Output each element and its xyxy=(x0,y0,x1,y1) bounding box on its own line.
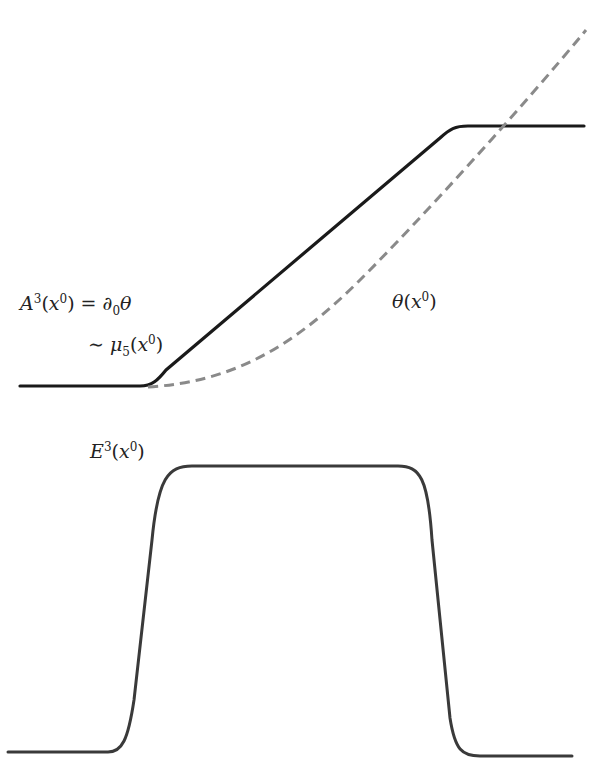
paren-open: ( xyxy=(112,440,119,462)
theta-symbol: θ xyxy=(120,292,131,314)
x-sup: 0 xyxy=(148,333,156,347)
paren-close: ) xyxy=(156,333,163,355)
partial-symbol: ∂ xyxy=(103,292,113,314)
paren-close: ) xyxy=(67,292,74,314)
x-var: x xyxy=(119,440,130,462)
e3-lower-curve xyxy=(8,466,572,756)
e3-label: E3(x0) xyxy=(90,440,145,462)
mu-symbol: μ xyxy=(110,333,122,355)
x-var: x xyxy=(49,292,60,314)
x-var: x xyxy=(137,333,148,355)
partial-sub: 0 xyxy=(112,304,120,318)
tilde-symbol: ∼ xyxy=(88,333,110,355)
mu-sub: 5 xyxy=(122,345,130,359)
e3-sup: 3 xyxy=(104,440,112,454)
x-var: x xyxy=(411,290,422,312)
diagram-canvas xyxy=(0,0,602,780)
paren-close: ) xyxy=(137,440,144,462)
paren-close: ) xyxy=(429,290,436,312)
theta-dashed-curve xyxy=(148,30,586,387)
paren-open: ( xyxy=(403,290,410,312)
theta-symbol: θ xyxy=(392,290,403,312)
mu5-label: ∼ μ5(x0) xyxy=(88,333,163,359)
e3-base: E xyxy=(90,440,104,462)
equals-sign: = xyxy=(75,292,103,314)
a3-base: A xyxy=(20,292,34,314)
theta-label: θ(x0) xyxy=(392,290,437,312)
a3-label: A3(x0) = ∂0θ xyxy=(20,292,132,318)
paren-open: ( xyxy=(41,292,48,314)
x-sup: 0 xyxy=(60,292,68,306)
